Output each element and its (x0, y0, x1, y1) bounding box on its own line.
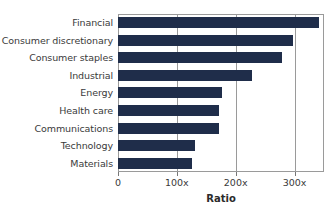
category-axis-labels: FinancialConsumer discretionaryConsumer … (0, 14, 113, 172)
x-tick-mark-3 (295, 172, 296, 176)
bar-row (118, 119, 324, 137)
bar-chart: FinancialConsumer discretionaryConsumer … (0, 0, 335, 213)
category-label-3: Industrial (0, 67, 113, 85)
x-tick-mark-2 (236, 172, 237, 176)
x-tick-mark-1 (177, 172, 178, 176)
bar-row (118, 32, 324, 50)
x-axis-title: Ratio (118, 193, 324, 204)
bar-row (118, 154, 324, 172)
x-tick-mark-0 (118, 172, 119, 176)
category-label-0: Financial (0, 14, 113, 32)
bar-5 (118, 105, 219, 116)
bar-2 (118, 52, 282, 63)
x-tick-label-3: 300x (283, 177, 307, 188)
category-label-6: Communications (0, 119, 113, 137)
category-label-1: Consumer discretionary (0, 32, 113, 50)
bar-row (118, 102, 324, 120)
category-label-5: Health care (0, 102, 113, 120)
bar-row (118, 14, 324, 32)
category-label-7: Technology (0, 137, 113, 155)
bar-row (118, 49, 324, 67)
bar-row (118, 137, 324, 155)
bar-row (118, 84, 324, 102)
bar-3 (118, 70, 252, 81)
x-tick-label-1: 100x (165, 177, 189, 188)
x-tick-label-0: 0 (115, 177, 121, 188)
bars-layer (118, 14, 324, 172)
bar-4 (118, 87, 222, 98)
category-label-4: Energy (0, 84, 113, 102)
bar-0 (118, 17, 319, 28)
bar-8 (118, 158, 192, 169)
bar-row (118, 67, 324, 85)
bar-6 (118, 123, 219, 134)
category-label-8: Materials (0, 154, 113, 172)
x-tick-label-2: 200x (224, 177, 248, 188)
bar-7 (118, 140, 195, 151)
bar-1 (118, 35, 293, 46)
category-label-2: Consumer staples (0, 49, 113, 67)
